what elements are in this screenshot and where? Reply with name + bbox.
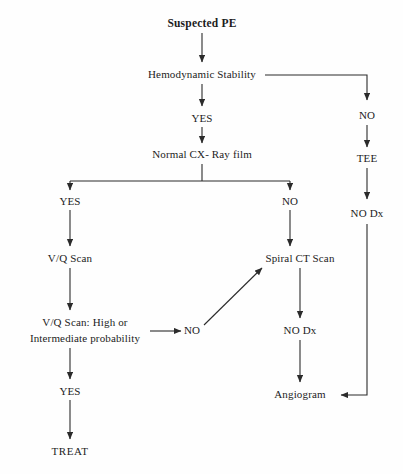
edge-no-dx-right-to-angiogram (341, 224, 367, 395)
node-spiral-ct-scan: Spiral CT Scan (265, 252, 334, 266)
node-hemodynamic-stability: Hemodynamic Stability (148, 68, 256, 82)
edge-hemodynamic-to-no (265, 75, 367, 100)
branch-label-no-dx-tee: NO Dx (351, 207, 384, 221)
branch-label-no-hemodynamic: NO (359, 109, 375, 123)
node-vq-probability-line2: Intermediate probability (30, 332, 140, 346)
branch-label-no-vq: NO (184, 324, 200, 338)
node-suspected-pe: Suspected PE (167, 16, 236, 30)
branch-label-yes-cxr: YES (59, 195, 80, 209)
edge-no-diagonal-to-spiral-ct (204, 268, 262, 325)
branch-label-no-cxr: NO (282, 195, 298, 209)
node-angiogram: Angiogram (274, 388, 325, 402)
node-vq-probability-line1: V/Q Scan: High or (42, 316, 127, 330)
node-treat: TREAT (51, 445, 88, 459)
node-normal-cx-ray-film: Normal CX- Ray film (152, 148, 252, 162)
node-tee: TEE (357, 152, 378, 166)
node-vq-scan: V/Q Scan (48, 252, 92, 266)
branch-label-yes-vq: YES (59, 385, 80, 399)
branch-label-yes-hemodynamic: YES (191, 112, 212, 126)
branch-label-no-dx-ct: NO Dx (284, 324, 317, 338)
flowchart-container: Suspected PE Hemodynamic Stability YES N… (0, 0, 403, 474)
